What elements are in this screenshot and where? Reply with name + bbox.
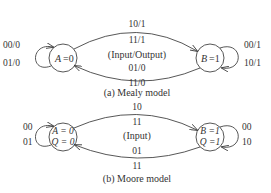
moore-loop-b-label-1: 00 bbox=[242, 122, 252, 132]
moore-top-label-2: 11 bbox=[132, 117, 141, 127]
mealy-top-label-2: 11/1 bbox=[129, 35, 146, 45]
mealy-loop-a-label-2: 01/0 bbox=[3, 58, 20, 68]
moore-loop-a-label-2: 01 bbox=[23, 137, 33, 147]
mealy-center-label: (Input/Output) bbox=[108, 49, 166, 61]
mealy-loop-b-label-1: 00/1 bbox=[244, 40, 261, 50]
mealy-bottom-label-1: 01/0 bbox=[129, 63, 146, 73]
mealy-caption: (a) Mealy model bbox=[104, 87, 171, 99]
moore-loop-b-label-2: 10 bbox=[242, 137, 252, 147]
moore-state-b-line1: B =1 bbox=[200, 126, 219, 136]
mealy-loop-b-label-2: 10/1 bbox=[244, 58, 261, 68]
moore-state-a-line1: A = 0 bbox=[51, 126, 74, 136]
mealy-top-label-1: 10/1 bbox=[129, 19, 146, 29]
moore-caption: (b) Moore model bbox=[103, 173, 172, 185]
moore-top-label-1: 10 bbox=[132, 102, 142, 112]
moore-diagram: A = 0 Q = 0 B =1 Q =1 00 01 00 10 10 11 … bbox=[23, 102, 252, 185]
mealy-state-b-label: B=1 bbox=[201, 53, 220, 64]
moore-bottom-label-2: 11 bbox=[132, 161, 141, 171]
moore-center-label: (Input) bbox=[123, 130, 151, 142]
mealy-loop-a-label-1: 00/0 bbox=[3, 40, 20, 50]
moore-state-a-line2: Q = 0 bbox=[52, 137, 75, 147]
moore-loop-a-label-1: 00 bbox=[23, 122, 33, 132]
mealy-self-loop-b bbox=[220, 47, 238, 69]
mealy-diagram: A=0 B=1 00/0 01/0 00/1 10/1 10/1 11/1 (I… bbox=[3, 19, 261, 99]
moore-state-b-line2: Q =1 bbox=[200, 137, 220, 147]
mealy-state-a-label: A=0 bbox=[54, 53, 74, 64]
moore-self-loop-b bbox=[220, 126, 238, 148]
moore-bottom-label-1: 01 bbox=[132, 146, 142, 156]
state-diagram: A=0 B=1 00/0 01/0 00/1 10/1 10/1 11/1 (I… bbox=[0, 0, 271, 193]
